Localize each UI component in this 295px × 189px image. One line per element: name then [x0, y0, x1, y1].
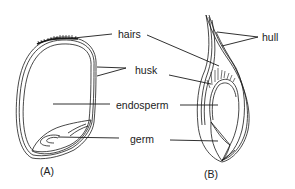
panel-label-a: (A): [40, 165, 54, 177]
label-germ: germ: [130, 133, 154, 145]
grain-b-endosperm-inner: [212, 83, 236, 120]
grain-b-hull-inner: [201, 17, 212, 125]
grain-a-germ-embryo: [40, 135, 60, 146]
label-husk: husk: [135, 64, 158, 76]
grain-a-husk-middle: [19, 40, 94, 156]
grain-a-hairs: [37, 35, 78, 44]
grain-a: [16, 35, 96, 159]
label-endosperm: endosperm: [116, 99, 169, 111]
leader-husk-a-1: [97, 67, 126, 68]
leader-hairs-b: [147, 35, 219, 66]
grain-b-hull-outer: [197, 15, 249, 162]
leader-hull-2: [222, 37, 258, 46]
grain-b-endosperm: [210, 79, 239, 145]
leader-husk-a-2: [97, 68, 126, 76]
leader-germ-a: [58, 137, 119, 138]
grain-a-germ-embryo-inner: [47, 137, 58, 143]
leader-hairs-a: [74, 34, 112, 38]
grain-b: [197, 15, 249, 162]
panel-label-b: (B): [204, 168, 218, 180]
label-hairs: hairs: [118, 28, 141, 40]
leader-germ-b: [170, 140, 218, 141]
leader-hull-1: [217, 32, 258, 37]
grain-b-husk-right: [216, 32, 244, 160]
label-hull: hull: [262, 31, 278, 43]
leader-husk-b: [169, 75, 211, 84]
grain-a-husk-outer: [16, 37, 96, 159]
grain-diagram: hairs husk endosperm germ hull (A) (B): [0, 0, 295, 189]
